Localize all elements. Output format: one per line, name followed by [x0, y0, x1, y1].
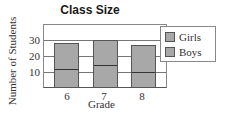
legend: Girls Boys [160, 26, 216, 62]
x-tick-8: 8 [132, 90, 152, 102]
boys-girls-divider [55, 69, 78, 70]
boys-girls-divider [94, 65, 117, 66]
boys-girls-divider [132, 72, 155, 73]
y-tick-30: 30 [16, 34, 40, 46]
bar-grade-7 [93, 40, 118, 88]
girls-swatch [165, 32, 175, 42]
x-tick-6: 6 [57, 90, 77, 102]
legend-label-boys: Boys [179, 46, 202, 58]
x-axis-label: Grade [88, 98, 115, 110]
bar-grade-8 [131, 45, 156, 88]
y-tick-20: 20 [16, 50, 40, 62]
y-tick-10: 10 [16, 66, 40, 78]
bar-grade-6 [54, 43, 79, 88]
legend-item-girls: Girls [165, 31, 201, 43]
chart-title: Class Size [0, 3, 180, 17]
legend-label-girls: Girls [179, 31, 201, 43]
plot-area [43, 24, 167, 88]
boys-swatch [165, 47, 175, 57]
legend-item-boys: Boys [165, 46, 202, 58]
